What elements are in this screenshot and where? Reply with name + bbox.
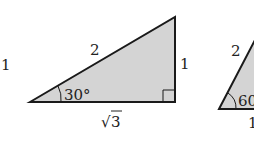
triangle-30-60-90: 2 1 30° √ 3 [30,17,190,131]
triangle1-shape [30,17,175,102]
vertical-side-label: 1 [180,55,190,73]
angle-label-60: 60° [238,92,254,110]
base-label: 3 [111,113,121,131]
hypotenuse-label: 2 [90,41,100,59]
triangles-diagram: 1 2 1 30° √ 3 2 60° 1 [0,0,254,141]
base-radical: √ [101,113,111,131]
triangle-60-30-90: 2 60° 1 [219,38,254,132]
base2-label: 1 [248,114,254,132]
left-label: 1 [1,56,11,74]
angle-label-30: 30° [64,86,91,104]
hypotenuse2-label: 2 [231,42,241,60]
